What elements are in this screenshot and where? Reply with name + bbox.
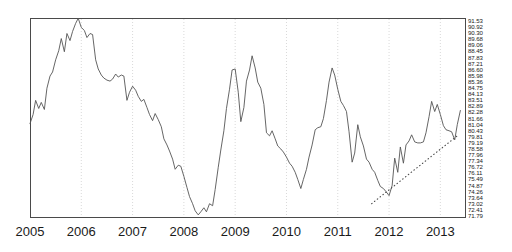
x-tick-label-2005: 2005: [16, 224, 45, 239]
x-tick-label-2008: 2008: [169, 224, 198, 239]
x-tick-label-2009: 2009: [221, 224, 250, 239]
x-tick-label-2011: 2011: [324, 224, 352, 239]
x-tick-label-2013: 2013: [426, 224, 455, 239]
x-tick-label-2007: 2007: [118, 224, 147, 239]
plot-area-frame: [30, 18, 466, 218]
x-tick-label-2012: 2012: [375, 224, 404, 239]
x-tick-label-2006: 2006: [67, 224, 96, 239]
x-axis-tick-labels: 200520062007200820092010201120122013: [30, 224, 466, 244]
x-tick-label-2010: 2010: [272, 224, 301, 239]
y-axis-tick-labels: 91.5390.9290.3089.6889.0688.4587.8387.21…: [468, 18, 512, 218]
y-tick-label: 71.79: [468, 213, 483, 219]
chart-container: 91.5390.9290.3089.6889.0688.4587.8387.21…: [0, 0, 512, 252]
